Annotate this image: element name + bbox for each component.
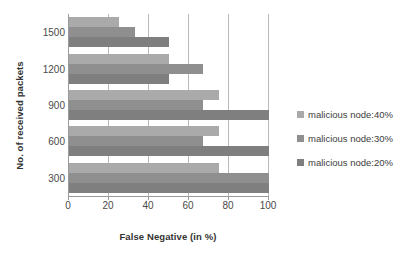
x-axis-tick-labels: 020406080100 <box>68 200 268 214</box>
bar <box>69 74 169 84</box>
legend-item[interactable]: malicious node:20% <box>297 152 405 172</box>
bar-group <box>69 123 269 159</box>
x-axis-tick-label: 40 <box>128 200 168 211</box>
bar-group <box>69 50 269 86</box>
bar <box>69 54 169 64</box>
bar-group <box>69 87 269 123</box>
bar <box>69 183 269 193</box>
y-axis-tick-label: 600 <box>28 136 65 147</box>
bar <box>69 37 169 47</box>
bar <box>69 100 203 110</box>
bar <box>69 173 269 183</box>
y-axis-tick-label: 900 <box>28 100 65 111</box>
legend-item[interactable]: malicious node:40% <box>297 104 405 124</box>
bar <box>69 27 135 37</box>
bar-group <box>69 14 269 50</box>
legend-item[interactable]: malicious node:30% <box>297 128 405 148</box>
x-axis-tick-label: 0 <box>48 200 88 211</box>
x-axis-tick-label: 20 <box>88 200 128 211</box>
legend-swatch-icon <box>297 111 304 118</box>
y-axis-tick-label: 1500 <box>28 27 65 38</box>
legend-swatch-icon <box>297 135 304 142</box>
x-axis-title: False Negative (in %) <box>40 231 296 242</box>
bar <box>69 110 269 120</box>
bar-chart-figure: No. of received packets 1500120090060030… <box>0 0 406 260</box>
legend-label: malicious node:30% <box>308 133 393 144</box>
legend-label: malicious node:20% <box>308 157 393 168</box>
bar <box>69 64 203 74</box>
bar <box>69 126 219 136</box>
x-axis-tick-label: 100 <box>248 200 288 211</box>
y-axis-tick-labels: 15001200900600300 <box>28 14 65 196</box>
plot-area <box>68 14 269 197</box>
x-axis-tick-label: 80 <box>208 200 248 211</box>
legend-label: malicious node:40% <box>308 109 393 120</box>
chart-legend: malicious node:40%malicious node:30%mali… <box>297 104 405 176</box>
y-axis-tick-label: 1200 <box>28 63 65 74</box>
legend-swatch-icon <box>297 159 304 166</box>
y-axis-tick-label: 300 <box>28 172 65 183</box>
bar <box>69 136 203 146</box>
bar-group <box>69 160 269 196</box>
y-axis-title: No. of received packets <box>14 36 25 196</box>
bar <box>69 163 219 173</box>
x-axis-tick-label: 60 <box>168 200 208 211</box>
bar <box>69 17 119 27</box>
bar <box>69 146 269 156</box>
bar <box>69 90 219 100</box>
